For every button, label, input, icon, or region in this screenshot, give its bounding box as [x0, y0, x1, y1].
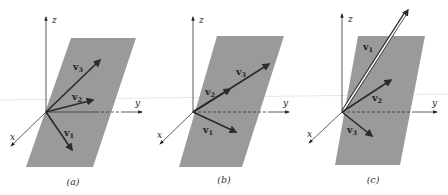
- x-axis-label: x: [10, 132, 15, 142]
- z-axis-label: z: [51, 15, 57, 25]
- figure-three-panels: z y x v1 v2 v3 (a) z y x v1 v2 v3 (b) z: [0, 0, 448, 195]
- x-axis-label: x: [307, 129, 312, 139]
- caption-b: (b): [217, 174, 231, 185]
- z-axis-label: z: [198, 15, 204, 25]
- caption-a: (a): [66, 176, 79, 187]
- panel-a: z y x v1 v2 v3 (a): [10, 15, 142, 187]
- z-axis-label: z: [347, 14, 353, 24]
- caption-c: (c): [367, 174, 380, 185]
- y-axis-label: y: [134, 98, 141, 108]
- x-axis-label: x: [157, 130, 162, 140]
- x-axis: [309, 112, 342, 143]
- panel-c: z y x v1 v2 v3 (c): [307, 10, 438, 185]
- y-axis-label: y: [431, 98, 438, 108]
- y-axis-label: y: [282, 98, 289, 108]
- plane: [179, 36, 284, 167]
- panel-b: z y x v1 v2 v3 (b): [157, 15, 289, 185]
